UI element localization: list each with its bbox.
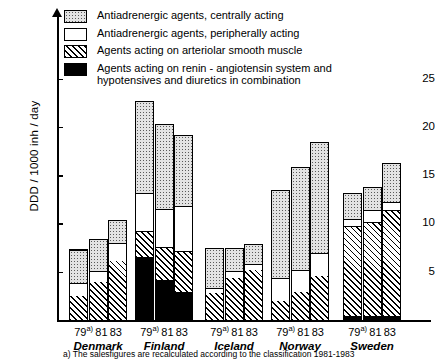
bar [343,193,362,320]
bar-segment-white [311,253,328,275]
bar [135,101,154,320]
bar [225,248,244,320]
bar-segment-white [383,202,400,210]
bar [244,244,263,320]
bar-segment-black [156,280,173,320]
bar-segment-dotted [311,142,328,253]
bar-segment-white [226,271,243,278]
bar-segment-hatched [226,278,243,321]
y-axis-title: DDD / 1000 inh / day [28,76,40,236]
bar-segment-white [70,283,87,296]
bar-segment-white [206,288,223,293]
x-year-labels: 79a) 81 83 [261,323,339,338]
bar-segment-white [344,219,361,227]
bar-segment-dotted [136,101,153,193]
bar-segment-black [383,316,400,320]
x-year-labels: 79a) 81 83 [333,323,411,338]
bar [69,249,88,320]
bar-segment-dotted [206,248,223,289]
bar-segment-dotted [156,124,173,209]
bar-segment-white [292,270,309,292]
bar-segment-white [175,206,192,251]
bar-segment-hatched [156,247,173,281]
bar-segment-white [364,210,381,223]
bar-segment-black [364,316,381,320]
x-year-label: 79 [276,326,288,338]
bar-segment-dotted [70,250,87,284]
x-year-label: 83 [384,326,396,338]
x-axis-line [57,320,431,322]
bar-segment-dotted [175,135,192,206]
footnote-marker: a) [288,324,295,333]
x-year-label: 81 [297,326,309,338]
bar [174,135,193,320]
bar-segment-white [109,243,126,261]
bar-segment-dotted [245,244,262,264]
bar-segment-hatched [109,261,126,320]
bar-segment-dotted [364,187,381,210]
bar-segment-white [156,209,173,247]
bar-segment-dotted [109,220,126,243]
bar [291,167,310,320]
bar [363,187,382,320]
bar-segment-dotted [344,193,361,218]
x-year-label: 83 [176,326,188,338]
x-year-label: 81 [95,326,107,338]
bar-segment-black [344,316,361,320]
bar [108,220,127,320]
bar-segment-hatched [70,296,87,320]
footnote-marker: a) [86,324,93,333]
x-year-label: 79 [140,326,152,338]
x-year-label: 81 [231,326,243,338]
x-year-label: 83 [110,326,122,338]
x-year-label: 79 [74,326,86,338]
x-year-labels: 79a) 81 83 [125,323,203,338]
bar-segment-white [136,193,153,232]
bar-segment-hatched [383,210,400,316]
x-year-label: 81 [161,326,173,338]
bar-segment-black [136,257,153,320]
bar-segment-hatched [311,276,328,320]
bar-segment-hatched [90,282,107,320]
bar-segment-hatched [272,301,289,320]
bar-segment-dotted [272,190,289,278]
x-year-label: 83 [246,326,258,338]
bar [155,124,174,320]
x-year-label: 79 [210,326,222,338]
bar-segment-dotted [292,167,309,269]
bar-segment-dotted [383,163,400,203]
plot-area [57,14,431,320]
bar-chart: DDD / 1000 inh / day 510152025 Antiadren… [0,0,435,361]
chart-footnote: a) The salesfigures are recalculated acc… [63,349,354,359]
bar-segment-hatched [344,226,361,316]
bar [310,142,329,320]
bar-segment-white [90,271,107,283]
bar [382,163,401,320]
bar [205,248,224,320]
bar-segment-dotted [90,239,107,271]
bar [271,190,290,320]
x-year-label: 79 [348,326,360,338]
bar-segment-black [175,292,192,320]
bar-segment-white [245,264,262,270]
bar-segment-hatched [364,222,381,316]
x-year-label: 83 [312,326,324,338]
x-year-label: 81 [369,326,381,338]
bar-segment-dotted [226,248,243,271]
bar-segment-white [272,278,289,301]
bar-segment-hatched [292,292,309,320]
footnote-marker: a) [360,324,367,333]
bar-segment-hatched [136,231,153,257]
bar-segment-hatched [175,251,192,292]
bar [89,239,108,320]
bar-segment-hatched [245,270,262,320]
bar-segment-hatched [206,293,223,320]
footnote-marker: a) [152,324,159,333]
footnote-marker: a) [222,324,229,333]
